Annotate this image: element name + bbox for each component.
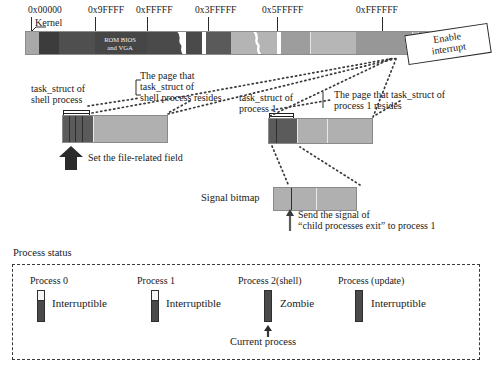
current-process-label: Current process — [230, 336, 296, 348]
process-2-bar — [264, 290, 272, 322]
process-1-name: Process 1 — [137, 275, 175, 286]
process-0-bar — [37, 290, 45, 322]
process-update-bar — [355, 290, 363, 322]
diagram-canvas: 0x00000 0x9FFFF 0xFFFFF 0x3FFFFF 0x5FFFF… — [0, 0, 498, 379]
process-2-name: Process 2(shell) — [238, 275, 302, 286]
process-status-title: Process status — [13, 247, 72, 259]
process-update-name: Process (update) — [338, 275, 404, 286]
process-0-name: Process 0 — [30, 275, 68, 286]
process-2-state: Zombie — [280, 297, 314, 309]
process-1-state: Interruptible — [166, 297, 221, 309]
process-update-state: Interruptible — [371, 297, 426, 309]
process-1-bar — [151, 290, 159, 322]
process-0-state: Interruptible — [52, 297, 107, 309]
